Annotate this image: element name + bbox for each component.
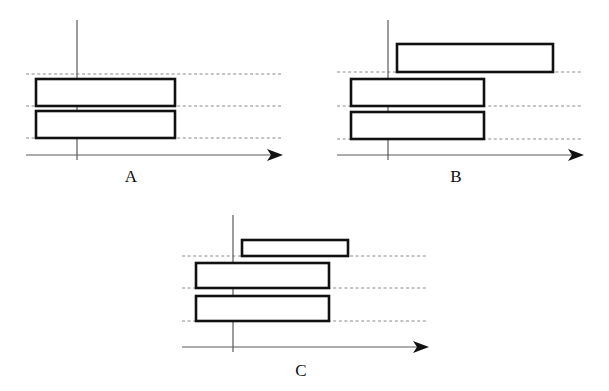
panel-c-bar-middle xyxy=(196,263,329,288)
three-panel-bar-diagram: ABC xyxy=(0,0,609,391)
panel-a-bar-upper xyxy=(36,79,175,106)
panel-c-bar-upper xyxy=(242,240,348,256)
panel-label-c: C xyxy=(295,361,306,380)
panel-c-bar-lower xyxy=(196,296,329,321)
panel-b-bar-upper xyxy=(397,44,553,72)
panel-label-b: B xyxy=(450,167,461,186)
panel-label-a: A xyxy=(125,167,138,186)
panel-b-bar-middle xyxy=(351,79,484,106)
figure-container: ABC xyxy=(0,0,609,391)
panel-b-bar-lower xyxy=(351,112,484,139)
panel-a-bar-lower xyxy=(36,111,175,138)
